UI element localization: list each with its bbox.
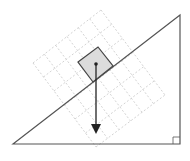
weight-vector-arrowhead-icon (91, 124, 101, 134)
diagram-svg (0, 0, 190, 161)
inclined-plane-diagram (0, 0, 190, 161)
right-angle-marker (173, 137, 180, 144)
grid-line (75, 67, 144, 119)
